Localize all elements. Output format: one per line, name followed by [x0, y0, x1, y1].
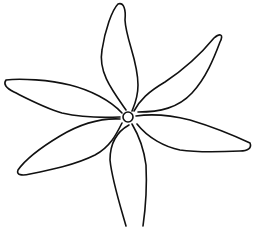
petal-lower-left — [18, 119, 122, 175]
petal-top — [101, 4, 138, 111]
petal-left — [5, 79, 122, 117]
petal-right — [136, 115, 251, 152]
flower-svg — [0, 0, 259, 228]
flower-drawing: Line drawing of a six-petaled flower — [0, 0, 259, 228]
flower-center — [123, 112, 133, 122]
petal-upper-right — [134, 35, 222, 112]
petal-bottom — [110, 124, 146, 226]
